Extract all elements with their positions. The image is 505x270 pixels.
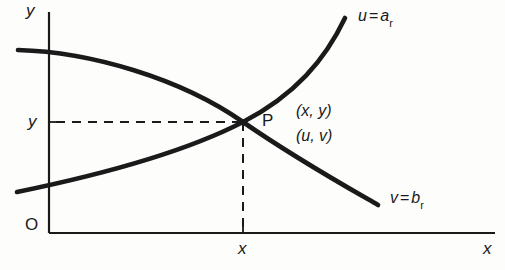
- ascending-curve-value: a: [380, 7, 389, 24]
- origin-label: O: [25, 216, 38, 233]
- x-axis-label: x: [483, 240, 492, 257]
- figure-container: y y O x x u=ar v=br P (x, y) (u, v): [0, 0, 505, 270]
- y-axis-label: y: [26, 2, 35, 19]
- descending-curve-value: b: [411, 189, 420, 206]
- ascending-curve-subscript: r: [389, 17, 393, 29]
- diagram-canvas: [0, 0, 505, 270]
- x-tick-label: x: [238, 240, 247, 257]
- ascending-curve-variable: u: [358, 7, 367, 24]
- descending-curve-label: v=br: [390, 190, 424, 209]
- point-p-label: P: [262, 112, 273, 129]
- descending-curve-equals: =: [398, 189, 411, 206]
- coordinate-label-uv: (u, v): [296, 128, 332, 144]
- ascending-curve-equals: =: [367, 7, 380, 24]
- descending-curve-variable: v: [390, 189, 398, 206]
- ascending-curve-label: u=ar: [358, 8, 393, 27]
- coordinate-label-xy: (x, y): [296, 103, 332, 119]
- y-tick-label: y: [28, 113, 37, 130]
- descending-curve-subscript: r: [420, 199, 424, 211]
